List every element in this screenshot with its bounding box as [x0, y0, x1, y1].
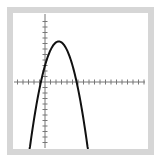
y-axis: [43, 14, 48, 148]
x-axis: [14, 80, 145, 85]
parabola-curve: [30, 41, 89, 149]
chart-plot-area: [13, 13, 148, 149]
chart-frame: [7, 7, 154, 155]
